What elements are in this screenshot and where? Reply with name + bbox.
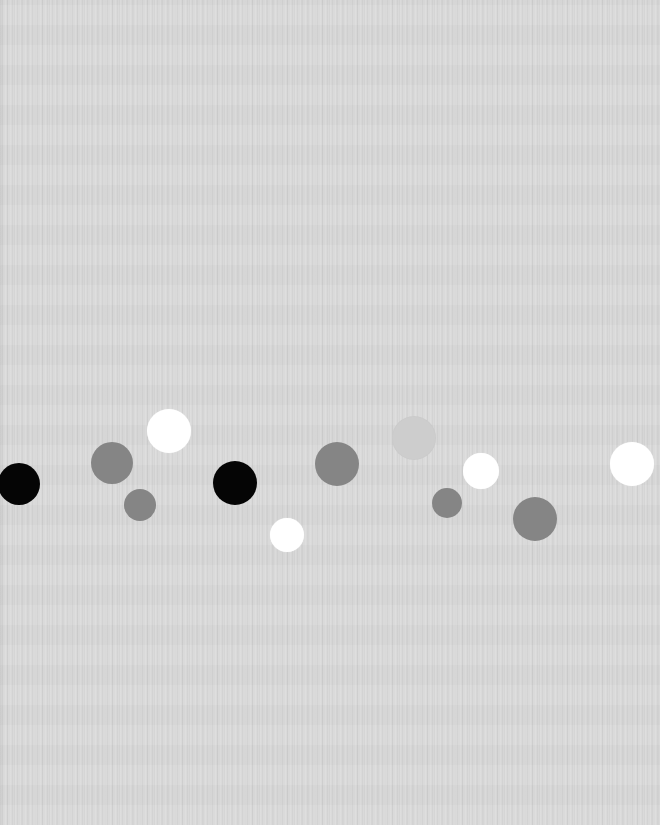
artwork-canvas: [0, 0, 660, 825]
circle-gray: [513, 497, 557, 541]
circle-white: [147, 409, 191, 453]
circle-white: [610, 442, 654, 486]
circle-white: [463, 453, 499, 489]
circle-gray: [315, 442, 359, 486]
circle-gray: [124, 489, 156, 521]
canvas-edge-shadow: [0, 0, 4, 825]
circle-light: [392, 416, 436, 460]
circle-white: [270, 518, 304, 552]
circle-gray: [91, 442, 133, 484]
circle-gray: [432, 488, 462, 518]
circle-black: [213, 461, 257, 505]
circle-black: [0, 463, 40, 505]
